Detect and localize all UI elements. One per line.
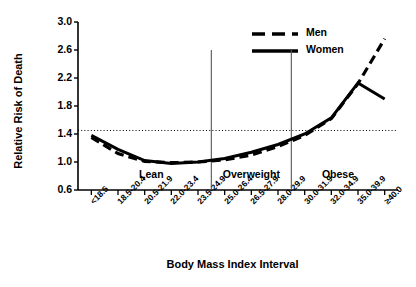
plot-area [0,0,416,287]
series-line-women [91,83,384,163]
series-line-men [91,39,384,163]
chart-figure: Relative Risk of Death Body Mass Index I… [0,0,416,287]
